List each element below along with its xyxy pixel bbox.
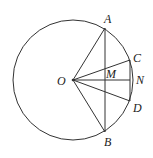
center-dot bbox=[72, 79, 75, 82]
label-o: O bbox=[57, 74, 66, 88]
label-m: M bbox=[105, 67, 117, 81]
segment-ob bbox=[73, 80, 105, 132]
segment-oc bbox=[73, 60, 130, 80]
geometry-diagram: O A B C D M N bbox=[0, 0, 153, 158]
diagram-svg: O A B C D M N bbox=[0, 0, 153, 158]
label-n: N bbox=[135, 73, 145, 87]
label-a: A bbox=[103, 12, 112, 26]
label-b: B bbox=[104, 135, 112, 149]
label-c: C bbox=[133, 51, 142, 65]
segment-od bbox=[73, 80, 130, 101]
label-d: D bbox=[132, 101, 142, 115]
segment-oa bbox=[73, 28, 105, 80]
